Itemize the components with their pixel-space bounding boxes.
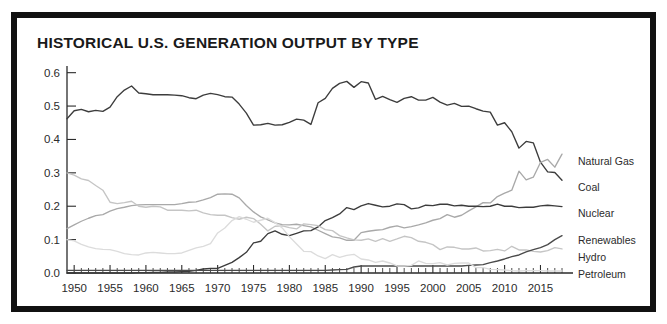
series-group	[67, 81, 562, 273]
series-label-renewables: Renewables	[578, 234, 636, 246]
series-line-renewables	[67, 236, 562, 271]
y-tick-label: 0.3	[44, 167, 60, 179]
series-label-nuclear: Nuclear	[578, 207, 615, 219]
axis-group	[67, 66, 573, 273]
series-label-petroleum: Petroleum	[578, 268, 626, 280]
x-tick-label: 1960	[133, 282, 159, 294]
x-tick-label: 2005	[456, 282, 482, 294]
series-label-group: Natural GasCoalNuclearRenewablesHydroPet…	[578, 155, 636, 280]
series-label-coal: Coal	[578, 181, 600, 193]
line-chart: 0.00.10.20.30.40.50.6 195019551960196519…	[17, 18, 650, 306]
series-line-nuclear	[67, 204, 562, 273]
axis-spine	[67, 66, 573, 273]
series-line-coal	[67, 81, 562, 180]
y-axis-labels: 0.00.10.20.30.40.50.6	[44, 67, 61, 279]
x-tick-label: 1975	[241, 282, 267, 294]
tick-group	[67, 73, 562, 273]
x-tick-label: 1995	[384, 282, 410, 294]
y-tick-label: 0.5	[44, 100, 60, 112]
series-label-natural-gas: Natural Gas	[578, 155, 634, 167]
x-tick-label: 1970	[205, 282, 231, 294]
y-tick-label: 0.6	[44, 67, 60, 79]
y-tick-label: 0.1	[44, 234, 60, 246]
x-tick-label: 2015	[528, 282, 554, 294]
x-tick-label: 2010	[492, 282, 518, 294]
series-line-natural-gas	[67, 154, 562, 240]
x-tick-label: 1950	[61, 282, 87, 294]
x-tick-label: 1965	[169, 282, 195, 294]
y-tick-label: 0.0	[44, 267, 60, 279]
x-tick-label: 2000	[420, 282, 446, 294]
y-tick-label: 0.2	[44, 200, 60, 212]
y-tick-label: 0.4	[44, 133, 61, 145]
screenshot-root: HISTORICAL U.S. GENERATION OUTPUT BY TYP…	[0, 0, 667, 324]
x-tick-label: 1985	[312, 282, 338, 294]
chart-frame: HISTORICAL U.S. GENERATION OUTPUT BY TYP…	[11, 12, 656, 312]
x-tick-label: 1990	[348, 282, 374, 294]
x-tick-label: 1955	[97, 282, 123, 294]
series-label-hydro: Hydro	[578, 251, 606, 263]
series-line-hydro	[67, 173, 562, 252]
x-axis-labels: 1950195519601965197019751980198519901995…	[61, 282, 553, 294]
x-tick-label: 1980	[277, 282, 303, 294]
chart-card: HISTORICAL U.S. GENERATION OUTPUT BY TYP…	[17, 18, 650, 306]
